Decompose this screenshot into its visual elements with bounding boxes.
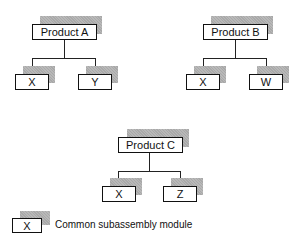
node-label: Z: [177, 188, 184, 200]
connector: [64, 40, 65, 59]
node-label: Product B: [211, 26, 259, 38]
node-w: W: [249, 74, 283, 90]
connector: [32, 58, 96, 59]
node-product-a: Product A: [32, 24, 97, 40]
node-label: Y: [91, 76, 98, 88]
connector: [118, 171, 181, 172]
node-label: Product C: [126, 139, 175, 151]
node-label: X: [115, 188, 122, 200]
node-label: W: [261, 76, 271, 88]
node-label: X: [28, 76, 35, 88]
node-x: X: [102, 186, 136, 202]
node-z: Z: [163, 186, 197, 202]
connector: [203, 58, 267, 59]
node-x: X: [186, 74, 220, 90]
node-x: X: [15, 74, 49, 90]
node-product-b: Product B: [203, 24, 268, 40]
legend-symbol: X: [12, 218, 42, 233]
node-y: Y: [78, 74, 112, 90]
connector: [235, 40, 236, 59]
connector: [149, 153, 150, 172]
node-label: X: [199, 76, 206, 88]
node-label: Product A: [41, 26, 89, 38]
legend-description: Common subassembly module: [55, 219, 192, 230]
node-product-c: Product C: [118, 137, 183, 153]
legend-symbol-label: X: [23, 220, 30, 232]
